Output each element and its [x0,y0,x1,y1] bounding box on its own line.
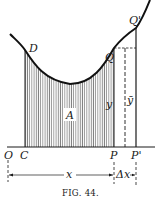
arrow-left-icon [9,174,13,177]
label-q-prime: Q' [129,14,141,27]
label-q: Q [105,51,114,64]
arrow-right-icon [109,174,113,177]
label-y-bar: ȳ [126,94,134,107]
shaded-area-a [25,40,114,147]
label-d: D [28,42,38,55]
label-x: x [66,168,73,181]
dimension-dx [130,174,135,177]
dimension-x [9,174,113,177]
label-p: P [109,149,118,162]
label-area-a: A [65,109,74,122]
arrow-right-icon [132,174,135,177]
label-dx: Δx [115,168,131,181]
label-p-prime: P' [130,149,141,162]
area-under-curve-diagram: D Q Q' A y ȳ O C P P' x Δx FIG. 44. [0,0,157,204]
label-o: O [4,149,13,162]
label-c: C [20,149,29,162]
label-y: y [105,98,113,111]
figure-caption: FIG. 44. [62,188,99,198]
